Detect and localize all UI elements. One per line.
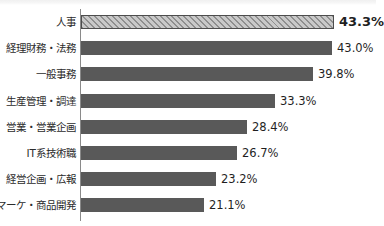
bar-wrapper <box>81 94 275 108</box>
chart-row: 人事 43.3% <box>0 9 376 35</box>
bar-wrapper <box>81 198 204 212</box>
bar-wrapper <box>81 146 237 160</box>
bar-wrapper <box>81 172 216 186</box>
bar <box>81 94 275 108</box>
bar <box>81 172 216 186</box>
category-label: マーケ・商品開発 <box>0 192 76 218</box>
category-label: IT系技術職 <box>26 140 76 166</box>
chart-row: 経理財務・法務 43.0% <box>0 35 376 61</box>
value-label: 43.0% <box>337 41 374 55</box>
category-label: 経営企画・広報 <box>6 166 76 192</box>
chart-row: 経営企画・広報 23.2% <box>0 166 376 192</box>
bar <box>81 67 313 81</box>
bar <box>81 41 332 55</box>
category-label: 一般事務 <box>36 61 76 87</box>
chart-row: 生産管理・調達 33.3% <box>0 88 376 114</box>
bar <box>81 120 247 134</box>
category-label: 人事 <box>56 9 76 35</box>
bar-highlight <box>81 15 334 29</box>
bar-wrapper <box>81 67 313 81</box>
value-label: 23.2% <box>221 172 258 186</box>
value-label: 26.7% <box>242 146 279 160</box>
chart-row: IT系技術職 26.7% <box>0 140 376 166</box>
value-label: 39.8% <box>318 67 355 81</box>
bar <box>81 146 237 160</box>
chart-row: 営業・営業企画 28.4% <box>0 114 376 140</box>
value-label: 21.1% <box>209 198 246 212</box>
bar-wrapper <box>81 15 334 29</box>
value-label: 28.4% <box>252 120 289 134</box>
chart-row: 一般事務 39.8% <box>0 61 376 87</box>
bar <box>81 198 204 212</box>
category-label: 生産管理・調達 <box>6 88 76 114</box>
category-label: 経理財務・法務 <box>6 35 76 61</box>
value-label: 43.3% <box>339 15 384 29</box>
value-label: 33.3% <box>280 94 317 108</box>
category-label: 営業・営業企画 <box>6 114 76 140</box>
chart-row: マーケ・商品開発 21.1% <box>0 192 376 218</box>
bar-wrapper <box>81 120 247 134</box>
bar-wrapper <box>81 41 332 55</box>
